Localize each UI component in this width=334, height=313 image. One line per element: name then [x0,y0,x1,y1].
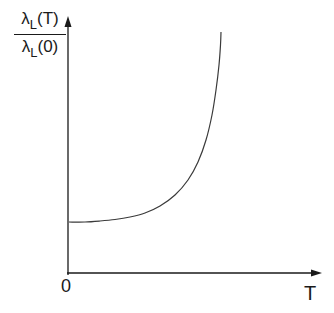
data-curve [69,32,221,222]
y-label-denominator: λL(0) [12,35,68,59]
x-axis-arrow-icon [311,270,322,277]
y-label-numerator: λL(T) [12,10,68,34]
origin-label: 0 [61,276,71,297]
y-axis-label: λL(T) λL(0) [12,10,68,59]
x-axis-label: T [304,282,316,305]
